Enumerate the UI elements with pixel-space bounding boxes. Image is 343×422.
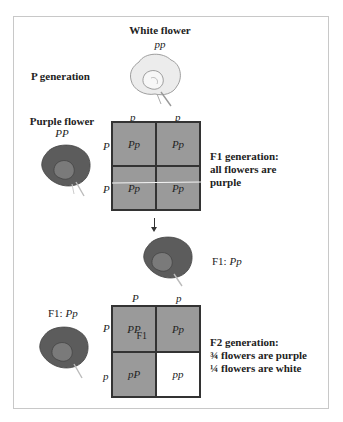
f2-caption-line2: ¾ flowers are purple bbox=[210, 349, 307, 362]
cross1-punnett-square: Pp Pp Pp Pp bbox=[111, 121, 201, 211]
cross2-genotype: Pp bbox=[65, 307, 77, 319]
white-flower-label: White flower bbox=[110, 24, 210, 37]
f1-caption-line3: purple bbox=[210, 176, 241, 189]
cross2-cell: Pp bbox=[156, 306, 200, 352]
purple-flower-icon bbox=[38, 140, 94, 198]
f1-purple-flower-icon bbox=[140, 232, 196, 288]
cross2-parent-label: F1: Pp bbox=[48, 307, 78, 320]
f1-genotype: Pp bbox=[229, 255, 241, 267]
cross2-row-header-1: P bbox=[103, 322, 110, 334]
white-flower-icon bbox=[125, 50, 187, 108]
f1-caption-line2: all flowers are bbox=[210, 163, 276, 176]
cross2-purple-flower-icon bbox=[36, 322, 92, 380]
cross1-cell: Pp bbox=[156, 166, 200, 210]
cross2-prefix: F1: bbox=[48, 307, 65, 319]
cross1-cell: Pp bbox=[112, 122, 156, 166]
cross2-cell: PPF1 bbox=[112, 306, 156, 352]
cross1-row-header-2: P bbox=[103, 183, 110, 195]
cross2-cell: pp bbox=[156, 352, 200, 398]
cross1-cell: Pp bbox=[156, 122, 200, 166]
f1-offspring-label: F1: Pp bbox=[212, 255, 242, 268]
cross1-row-header-1: P bbox=[103, 140, 110, 152]
f1-caption-line1: F1 generation: bbox=[210, 150, 279, 163]
cross1-cell: Pp bbox=[112, 166, 156, 210]
down-arrow-icon bbox=[154, 218, 155, 228]
f2-caption-line3: ¼ flowers are white bbox=[210, 362, 301, 375]
f1-tag: F1 bbox=[136, 330, 147, 341]
f1-prefix: F1: bbox=[212, 255, 229, 267]
cross2-row-header-2: p bbox=[103, 370, 109, 382]
purple-flower-genotype: PP bbox=[22, 127, 102, 140]
f2-caption-line1: F2 generation: bbox=[210, 336, 279, 349]
cross2-col-header-2: p bbox=[176, 292, 182, 304]
p-generation-label: P generation bbox=[31, 70, 90, 83]
cross2-col-header-1: P bbox=[132, 292, 139, 304]
cross2-punnett-square: PPF1 Pp pP pp bbox=[111, 305, 201, 398]
cross2-cell: pP bbox=[112, 352, 156, 398]
